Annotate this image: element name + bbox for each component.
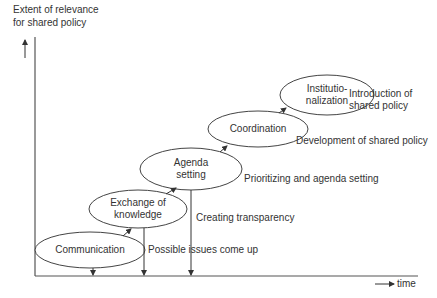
arrow-exchange-to-agenda xyxy=(166,188,176,194)
stage-agenda-label-line1: Agenda xyxy=(140,157,242,169)
x-axis-label: time xyxy=(397,278,416,290)
arrow-coordination-to-institution xyxy=(279,108,286,113)
y-axis-label-line1: Extent of relevance xyxy=(13,4,99,16)
arrow-agenda-to-coordination xyxy=(220,146,227,152)
outcome-institution-line2: shared policy xyxy=(349,100,408,112)
y-axis-label-line2: for shared policy xyxy=(13,17,86,29)
stage-exchange-label-line1: Exchange of xyxy=(89,197,187,209)
stage-agenda-label-line2: setting xyxy=(140,169,242,181)
outcome-agenda: Prioritizing and agenda setting xyxy=(244,173,379,185)
outcome-coordination: Development of shared policy xyxy=(296,135,428,147)
outcome-institution-line1: Introduction of xyxy=(349,88,412,100)
stage-coordination-label: Coordination xyxy=(208,123,308,135)
outcome-exchange: Creating transparency xyxy=(196,212,294,224)
arrow-comm-to-exchange xyxy=(123,229,131,236)
stage-communication-label: Communication xyxy=(35,244,145,256)
stage-exchange-label-line2: knowledge xyxy=(89,209,187,221)
outcome-communication: Possible issues come up xyxy=(148,244,258,256)
